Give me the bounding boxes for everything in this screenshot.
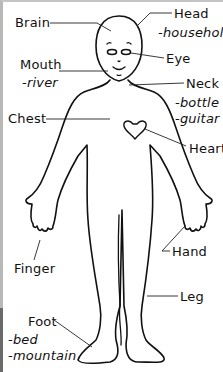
- label-head: Head: [174, 7, 209, 21]
- label-hand: Hand: [172, 245, 207, 259]
- right-eye: [122, 50, 131, 55]
- label-neck-sub2: -guitar: [175, 112, 220, 126]
- label-leg: Leg: [180, 290, 204, 304]
- mouth: [113, 67, 125, 70]
- left-eye: [108, 50, 117, 55]
- label-brain: Brain: [15, 16, 50, 30]
- label-heart: Heart: [189, 142, 223, 156]
- label-foot-sub2: -mountain: [8, 349, 77, 363]
- heart-shape: [124, 121, 146, 139]
- label-mouth-sub: -river: [22, 76, 58, 90]
- label-head-sub: -household: [158, 26, 223, 40]
- label-chest: Chest: [8, 112, 46, 126]
- label-foot: Foot: [28, 315, 57, 329]
- label-neck: Neck: [186, 77, 219, 91]
- label-eye: Eye: [166, 52, 191, 66]
- label-neck-sub: -bottle: [175, 96, 219, 110]
- label-foot-sub: -bed: [8, 333, 38, 347]
- label-mouth: Mouth: [20, 58, 62, 72]
- label-finger: Finger: [14, 262, 55, 276]
